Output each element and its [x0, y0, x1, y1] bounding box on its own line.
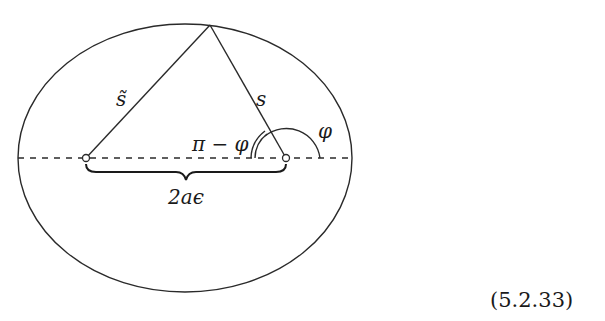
supplement-angle-arc-inner: [255, 134, 267, 158]
label-phi: φ: [318, 119, 332, 143]
equation-number: (5.2.33): [490, 288, 573, 312]
label-s: s: [256, 87, 266, 111]
label-2a-epsilon: 2aϵ: [167, 185, 204, 209]
focal-distance-brace: [86, 164, 286, 180]
ellipse-diagram: s̃ s φ π − φ 2aϵ (5.2.33): [0, 0, 605, 321]
phi-angle-arc: [265, 129, 320, 158]
right-focus-marker: [283, 155, 290, 162]
left-focus-marker: [83, 155, 90, 162]
label-s-tilde: s̃: [116, 87, 127, 111]
label-pi-minus-phi: π − φ: [191, 132, 249, 156]
